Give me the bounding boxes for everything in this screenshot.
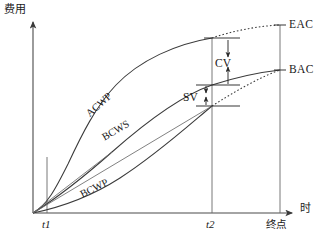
- cv-label: CV: [215, 58, 231, 70]
- axis-group: [33, 22, 292, 213]
- bac-label: BAC: [289, 64, 314, 76]
- sv-label: SV: [183, 92, 198, 104]
- x-axis-label: 时: [300, 203, 311, 214]
- curve-group: [33, 25, 280, 213]
- endpoint-tick-label: 终点: [266, 219, 286, 230]
- t2-tick-label: t2: [206, 219, 215, 230]
- acwp-dotted-extension: [212, 25, 280, 38]
- y-axis-label: 费用: [4, 4, 26, 15]
- evm-chart-canvas: [0, 0, 321, 244]
- eac-label: EAC: [289, 19, 313, 31]
- evm-chart: 费用 时 t1 t2 终点 EAC BAC CV SV ACWP BCWS BC…: [0, 0, 321, 244]
- reference-lines: [47, 25, 280, 213]
- bcws-curve: [33, 70, 280, 213]
- variance-bracket-group: [196, 25, 286, 106]
- t1-tick-label: t1: [42, 219, 51, 230]
